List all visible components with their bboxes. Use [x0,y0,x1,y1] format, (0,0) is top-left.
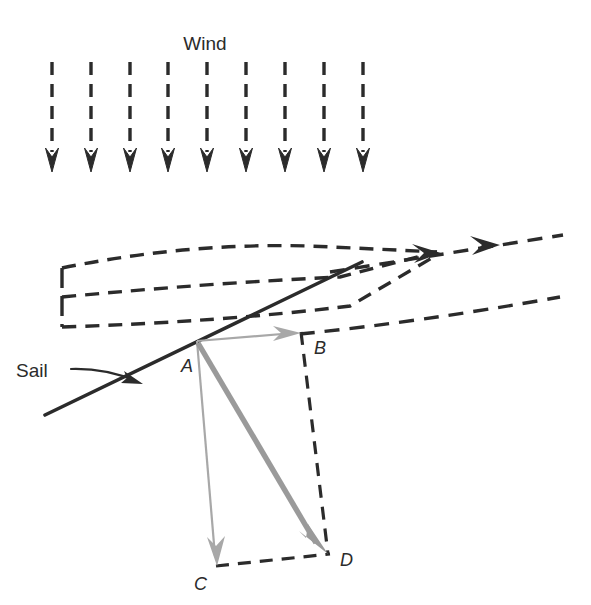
vertex-label-d: D [340,550,353,570]
canvas-background [0,0,591,605]
sail-label: Sail [16,360,48,381]
vertex-label-a: A [180,356,193,376]
wind-label: Wind [183,33,226,54]
vertex-label-b: B [314,338,326,358]
vertex-label-c: C [194,574,208,594]
sail-force-diagram: Wind [0,0,591,605]
